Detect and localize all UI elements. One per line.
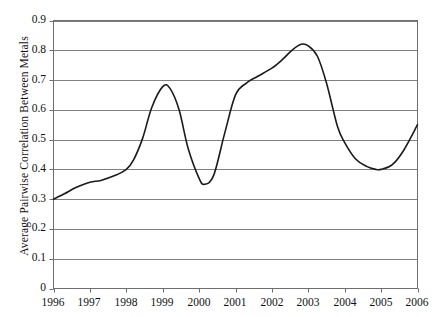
data-line-series-0	[54, 44, 418, 199]
y-axis-ticks	[50, 22, 54, 290]
gridlines	[54, 22, 418, 260]
x-axis-ticks	[55, 289, 419, 293]
plot-area	[0, 0, 441, 317]
plot-frame	[54, 21, 418, 289]
chart-figure: Average Pairwise Correlation Between Met…	[0, 0, 441, 317]
